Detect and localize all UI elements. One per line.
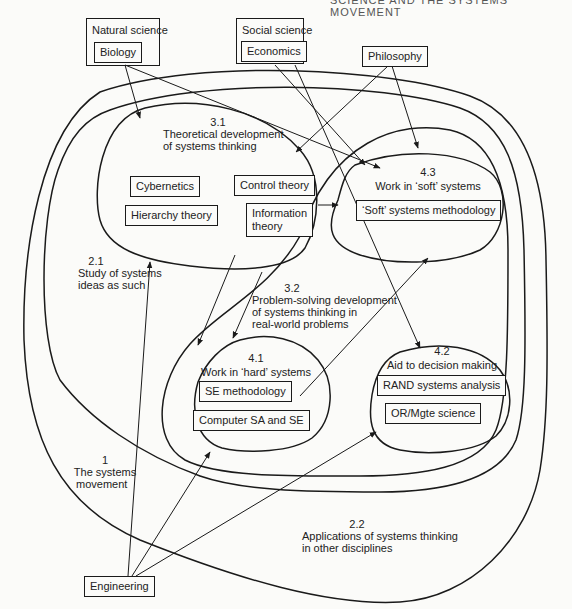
hierarchy-theory-box: Hierarchy theory (125, 205, 218, 226)
region-21-label: 2.1 Study of systems ideas as such (78, 255, 162, 291)
region-32-title-line1: Problem-solving development (252, 294, 397, 306)
region-32-title-line3: real-world problems (252, 318, 397, 330)
region-41-label: 4.1 Work in ‘hard’ systems (196, 352, 316, 378)
information-theory-line2: theory (252, 220, 307, 233)
arrow-engineering-to-41 (132, 452, 210, 576)
region-42-label: 4.2 Aid to decision making (372, 345, 512, 371)
region-42-title: Aid to decision making (372, 359, 512, 371)
philosophy-box: Philosophy (362, 46, 428, 67)
region-32-title-line2: of systems thinking in (252, 306, 397, 318)
control-theory-box: Control theory (234, 175, 315, 196)
region-21-title-line1: Study of systems (78, 267, 162, 279)
region-1-number: 1 (70, 454, 140, 466)
arrow-philosophy-to-43 (392, 66, 418, 148)
region-31-title-line2: of systems thinking (163, 140, 283, 152)
biology-box: Biology (94, 42, 142, 63)
region-42-number: 4.2 (372, 345, 512, 357)
region-43-number: 4.3 (373, 166, 483, 178)
region-22-label: 2.2 Applications of systems thinking in … (302, 518, 458, 554)
natural-science-label: Natural science (92, 24, 168, 36)
region-21-number: 2.1 (78, 255, 114, 267)
region-32-label: 3.2 Problem-solving development of syste… (252, 282, 397, 330)
region-43-title: Work in ‘soft’ systems (373, 180, 483, 192)
se-methodology-box: SE methodology (199, 381, 292, 402)
or-mgte-science-box: OR/Mgte science (385, 403, 481, 424)
social-science-label: Social science (242, 24, 312, 36)
natural-science-box: Natural science Biology (86, 18, 160, 66)
region-41-number: 4.1 (196, 352, 316, 364)
region-22-title-line1: Applications of systems thinking (302, 530, 458, 542)
social-science-box: Social science Economics (236, 18, 304, 64)
region-1-label: 1 The systems movement (70, 454, 140, 490)
rand-systems-analysis-box: RAND systems analysis (377, 375, 506, 396)
region-1-title-line2: movement (70, 478, 140, 490)
soft-systems-methodology-box: ‘Soft’ systems methodology (356, 200, 501, 221)
region-31-label: 3.1 Theoretical development of systems t… (163, 116, 283, 152)
arrow-biology-to-31 (125, 65, 140, 118)
region-31-number: 3.1 (163, 116, 273, 128)
arrow-economics-to-43 (275, 65, 365, 165)
economics-box: Economics (241, 41, 307, 62)
region-1-boundary (24, 70, 547, 602)
engineering-box: Engineering (84, 576, 155, 597)
region-31-title-line1: Theoretical development (163, 128, 283, 140)
information-theory-box: Information theory (246, 203, 313, 237)
region-41-title: Work in ‘hard’ systems (196, 366, 316, 378)
region-21-title-line2: ideas as such (78, 279, 162, 291)
computer-sa-se-box: Computer SA and SE (193, 410, 310, 431)
region-22-title-line2: in other disciplines (302, 542, 458, 554)
region-1-title-line1: The systems (70, 466, 140, 478)
cybernetics-box: Cybernetics (130, 176, 200, 197)
region-22-number: 2.2 (302, 518, 412, 530)
region-43-label: 4.3 Work in ‘soft’ systems (373, 166, 483, 192)
arrow-engineering-to-42 (136, 432, 376, 576)
region-32-number: 3.2 (252, 282, 332, 294)
arrow-engineering-to-21 (128, 262, 150, 576)
information-theory-line1: Information (252, 207, 307, 220)
